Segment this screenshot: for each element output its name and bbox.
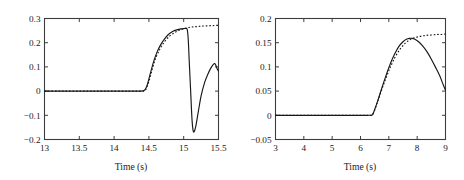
- y-tick-label: −0.05: [250, 135, 272, 145]
- chart-panel-left: 1313.51414.51515.5−0.2−0.100.10.20.3 Tim…: [0, 0, 232, 180]
- y-tick-label: −0.1: [24, 111, 41, 121]
- chart-svg-right: 3456789−0.0500.050.10.150.2 Time (s): [232, 0, 464, 180]
- tick-labels-left: 1313.51414.51515.5−0.2−0.100.10.20.3: [24, 14, 227, 153]
- two-panel-time-series-figure: 1313.51414.51515.5−0.2−0.100.10.20.3 Tim…: [0, 0, 464, 180]
- y-tick-label: 0.2: [29, 38, 41, 48]
- curve-model-left: [45, 25, 219, 91]
- curve-measured-right: [276, 38, 446, 115]
- y-tick-label: 0.3: [29, 14, 41, 24]
- x-tick-label: 14: [110, 143, 120, 153]
- x-tick-label: 14.5: [141, 143, 157, 153]
- x-tick-label: 5: [330, 143, 335, 153]
- x-axis-label-left: Time (s): [115, 161, 147, 173]
- y-tick-label: 0: [36, 86, 41, 96]
- y-tick-label: 0.2: [260, 14, 272, 24]
- chart-svg-left: 1313.51414.51515.5−0.2−0.100.10.20.3 Tim…: [0, 0, 232, 180]
- x-tick-label: 7: [387, 143, 392, 153]
- y-tick-label: 0.05: [255, 86, 271, 96]
- x-tick-label: 15: [179, 143, 189, 153]
- x-tick-label: 3: [273, 143, 278, 153]
- x-tick-label: 6: [358, 143, 363, 153]
- y-tick-label: 0.1: [29, 62, 41, 72]
- x-tick-label: 15.5: [210, 143, 226, 153]
- y-tick-label: −0.2: [24, 135, 41, 145]
- x-axis-label-right: Time (s): [344, 161, 376, 173]
- x-tick-label: 13.5: [71, 143, 87, 153]
- y-tick-label: 0.1: [260, 62, 272, 72]
- y-tick-label: 0.15: [255, 38, 271, 48]
- series-group-left: [45, 25, 219, 132]
- curve-model-right: [276, 34, 446, 115]
- x-tick-label: 4: [302, 143, 307, 153]
- tick-labels-right: 3456789−0.0500.050.10.150.2: [250, 14, 448, 153]
- series-group-right: [276, 34, 446, 115]
- chart-panel-right: 3456789−0.0500.050.10.150.2 Time (s): [232, 0, 464, 180]
- y-tick-label: 0: [267, 111, 272, 121]
- x-tick-label: 9: [443, 143, 448, 153]
- x-tick-label: 8: [415, 143, 420, 153]
- curve-measured-left: [45, 28, 219, 132]
- x-tick-label: 13: [40, 143, 50, 153]
